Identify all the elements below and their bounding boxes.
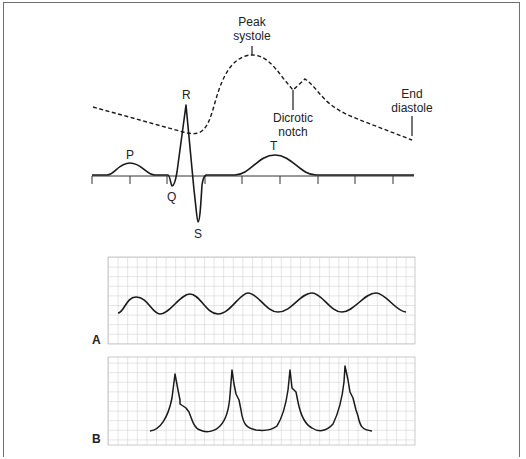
ecg-label-r: R	[182, 88, 191, 102]
ecg-label-q: Q	[167, 190, 176, 204]
panel-a-grid	[108, 257, 415, 344]
peak-systole-label-line2: systole	[233, 29, 271, 43]
ecg-label-p: P	[126, 148, 134, 162]
arterial-pressure-trace	[93, 55, 412, 140]
panel-b-label: B	[92, 432, 101, 446]
panel-b-grid	[108, 357, 415, 445]
time-axis-ticks	[92, 176, 393, 184]
dicrotic-notch-label-line1: Dicrotic	[273, 111, 313, 125]
panel-b: B	[92, 357, 415, 446]
dicrotic-notch-label-line2: notch	[278, 125, 307, 139]
peak-systole-label-line1: Peak	[238, 15, 266, 29]
panel-a: A	[92, 257, 415, 347]
figure-canvas: P Q R S T Peak systole Dicrotic notch En…	[0, 0, 526, 459]
ecg-label-s: S	[194, 227, 202, 241]
ecg-label-t: T	[270, 139, 278, 153]
top-diagram: P Q R S T Peak systole Dicrotic notch En…	[92, 15, 433, 241]
end-diastole-label-line2: diastole	[391, 101, 433, 115]
ecg-trace	[92, 105, 414, 222]
panel-a-label: A	[92, 333, 101, 347]
end-diastole-label-line1: End	[401, 87, 422, 101]
